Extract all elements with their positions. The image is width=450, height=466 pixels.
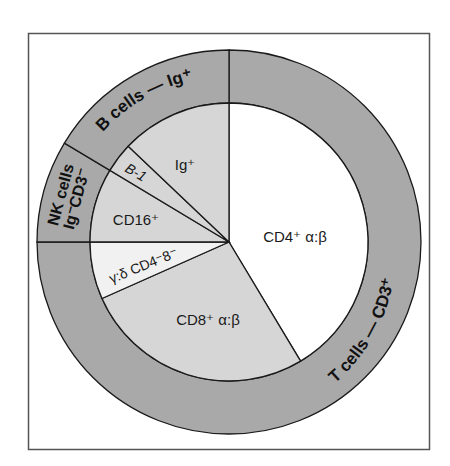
lymphocyte-population-diagram: CD4⁺ α:β CD8⁺ α:β γ:δ CD4⁻8⁻ CD16⁺ B-1 I… bbox=[0, 0, 450, 466]
label-cd4: CD4⁺ α:β bbox=[263, 228, 327, 245]
label-cd16: CD16⁺ bbox=[113, 211, 159, 228]
label-ig: Ig⁺ bbox=[175, 156, 196, 173]
label-cd8: CD8⁺ α:β bbox=[176, 311, 240, 328]
